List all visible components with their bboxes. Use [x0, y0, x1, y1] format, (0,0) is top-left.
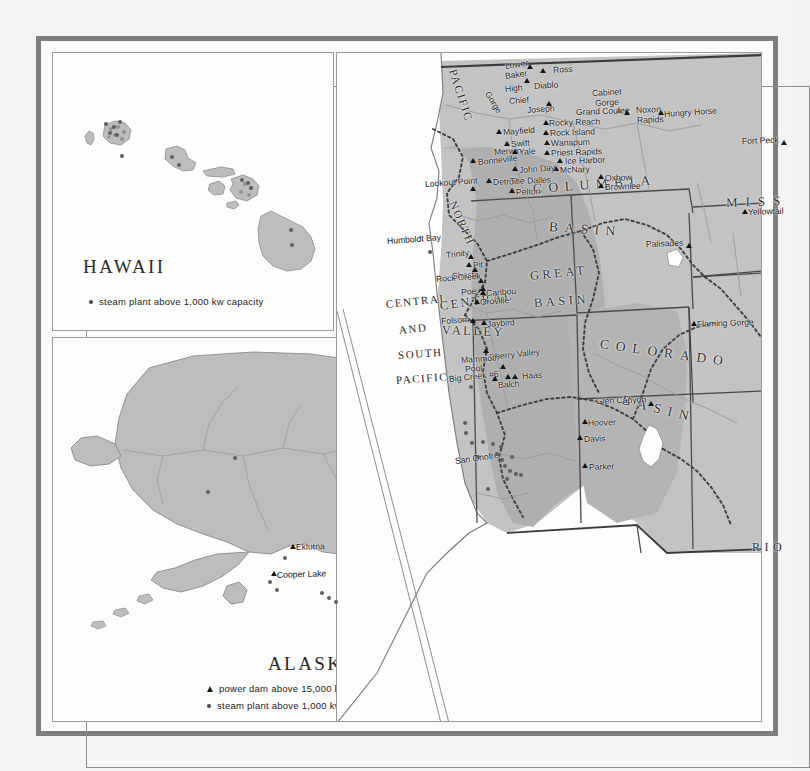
steam-plant-marker [503, 464, 507, 468]
steam-plant-marker [283, 556, 287, 560]
steam-plant-marker [519, 473, 523, 477]
power-dam-marker [512, 374, 518, 379]
power-dam-marker [543, 130, 549, 135]
steam-plant-marker [289, 228, 293, 232]
place-label: Glen Canyon [596, 395, 646, 405]
place-label: Brownlee [605, 182, 641, 192]
region-label: RIO [752, 541, 786, 553]
power-dam-marker [470, 318, 476, 323]
power-dam-marker [598, 183, 604, 188]
steam-plant-marker [206, 490, 210, 494]
power-dam-marker [290, 544, 296, 549]
steam-plant-marker [500, 458, 504, 462]
power-dam-marker [540, 68, 546, 73]
steam-plant-marker [268, 580, 272, 584]
steam-plant-marker [104, 122, 108, 126]
steam-plant-marker [320, 591, 324, 595]
place-label: Fort Peck [742, 136, 779, 146]
steam-plant-marker [327, 596, 331, 600]
power-dam-marker [500, 364, 506, 369]
place-label: Mayfield [503, 126, 536, 137]
place-label: High [505, 83, 523, 93]
hawaii-islands-svg [53, 53, 334, 331]
steam-plant-marker [115, 133, 119, 137]
steam-plant-marker [177, 163, 181, 167]
power-dam-marker [658, 110, 664, 115]
place-label: Diablo [534, 80, 559, 90]
power-dam-marker [512, 166, 518, 171]
place-label: Folsom [441, 315, 470, 326]
steam-plant-marker [246, 181, 250, 185]
power-dam-marker [271, 571, 277, 576]
power-dam-marker [527, 64, 533, 69]
steam-plant-marker [118, 120, 122, 124]
power-dam-marker [582, 463, 588, 468]
power-dam-marker [478, 278, 484, 283]
place-label: Parker [589, 462, 615, 471]
steam-plant-marker [499, 445, 503, 449]
hawaii-legend-steam-label: steam plant above 1,000 kw capacity [99, 296, 264, 307]
power-dam-marker [505, 374, 511, 379]
place-label: Palisades [646, 239, 684, 249]
power-dam-marker [686, 243, 692, 248]
steam-plant-marker [120, 154, 124, 158]
place-label: Haas [522, 371, 543, 381]
power-dam-marker [468, 254, 474, 259]
power-dam-marker [474, 299, 480, 304]
filled-circle-icon [89, 300, 93, 304]
power-dam-marker [577, 435, 583, 440]
hawaii-inset-panel: HAWAII steam plant above 1,000 kw capaci… [52, 52, 334, 331]
hawaii-inset-title: HAWAII [83, 256, 166, 278]
place-label: Ross [553, 65, 573, 75]
power-dam-marker [544, 150, 550, 155]
power-dam-marker [509, 188, 515, 193]
steam-plant-marker [290, 243, 294, 247]
steam-plant-marker [476, 455, 480, 459]
power-dam-marker [546, 101, 552, 106]
power-dam-marker [480, 290, 486, 295]
steam-plant-marker [470, 441, 474, 445]
place-label: Yale [519, 147, 536, 157]
place-label: Balch [498, 380, 520, 390]
steam-plant-marker [249, 186, 253, 190]
hawaii-legend-steam: steam plant above 1,000 kw capacity [89, 296, 264, 307]
steam-plant-marker [505, 477, 509, 481]
steam-plant-marker [112, 125, 116, 129]
steam-plant-marker [469, 385, 473, 389]
steam-plant-marker [508, 469, 512, 473]
place-label: Detroit [493, 177, 519, 186]
power-dam-marker [598, 174, 604, 179]
place-label: McNary [560, 165, 590, 175]
power-dam-marker [543, 120, 549, 125]
power-dam-marker [648, 401, 654, 406]
place-label: Hoover [588, 418, 616, 428]
power-dam-marker [624, 110, 630, 115]
power-dam-marker [470, 158, 476, 163]
place-label: Cooper Lake [277, 569, 326, 579]
steam-plant-marker [510, 455, 514, 459]
power-dam-marker [557, 158, 563, 163]
steam-plant-marker [240, 178, 244, 182]
place-label: Trinity [446, 249, 470, 260]
place-label: Yellowtail [748, 207, 784, 217]
filled-circle-icon [207, 704, 211, 708]
steam-plant-marker [486, 487, 490, 491]
steam-plant-marker [495, 452, 499, 456]
steam-plant-marker [428, 250, 432, 254]
place-label: Pelton [516, 187, 541, 196]
power-dam-marker [742, 209, 748, 214]
place-label: Poe [461, 287, 477, 297]
power-dam-marker [781, 140, 787, 145]
place-label: Jaybird [487, 318, 515, 329]
power-dam-marker [470, 186, 476, 191]
steam-plant-marker [233, 456, 237, 460]
steam-plant-marker [275, 588, 279, 592]
steam-plant-marker [491, 442, 495, 446]
place-label: Rapids [637, 115, 664, 125]
steam-plant-marker [481, 440, 485, 444]
power-dam-marker [582, 419, 588, 424]
power-dam-marker [481, 320, 487, 325]
place-label: Davis [584, 434, 606, 443]
steam-plant-marker [463, 421, 467, 425]
place-label: Grand Coulee [576, 106, 630, 116]
